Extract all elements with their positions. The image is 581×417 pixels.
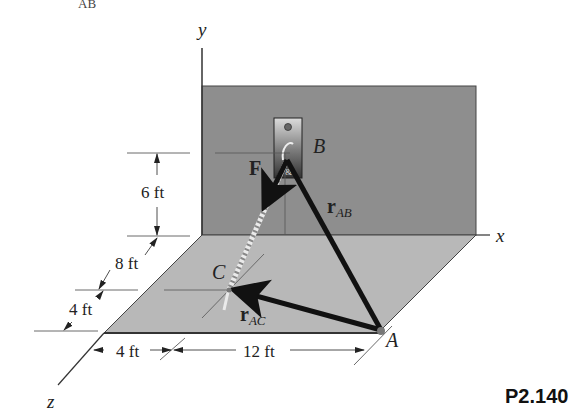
vector-r-AC-label: rAC <box>240 304 266 324</box>
point-B-label: B <box>313 136 325 156</box>
x-axis-label: x <box>496 226 504 245</box>
cropped-header-text: AB <box>78 0 96 12</box>
point-C <box>227 288 232 293</box>
statics-diagram: & <box>0 0 581 417</box>
dim-label-4ft-z: 4 ft <box>69 301 92 318</box>
vector-r-AB-sub: AB <box>336 205 352 220</box>
z-axis <box>58 333 104 385</box>
dim-8ft-lower <box>99 270 110 289</box>
vector-r-AB-base: r <box>327 195 336 217</box>
dim-label-12ft: 12 ft <box>243 343 275 360</box>
point-C-label: C <box>212 262 225 282</box>
dim-4ft-z-upper <box>100 291 103 295</box>
dim-4ft-z-lower <box>64 322 72 330</box>
point-A <box>377 327 385 335</box>
y-axis-label: y <box>198 20 206 39</box>
vector-r-AC-base: r <box>240 303 249 325</box>
dim-label-6ft: 6 ft <box>141 184 164 201</box>
dim-8ft-upper <box>145 238 157 255</box>
problem-number: P2.140 <box>505 385 568 408</box>
force-F-label: F <box>249 158 261 178</box>
bolt-icon <box>285 124 292 131</box>
floor-plane <box>104 235 476 333</box>
vector-r-AB-label: rAB <box>327 196 352 216</box>
point-A-label: A <box>386 330 398 350</box>
z-axis-label: z <box>47 392 54 411</box>
dim-x-tick-C <box>160 338 185 360</box>
dim-label-8ft: 8 ft <box>115 255 138 272</box>
vector-r-AC-sub: AC <box>249 313 266 328</box>
dim-label-4ft-x: 4 ft <box>116 343 139 360</box>
